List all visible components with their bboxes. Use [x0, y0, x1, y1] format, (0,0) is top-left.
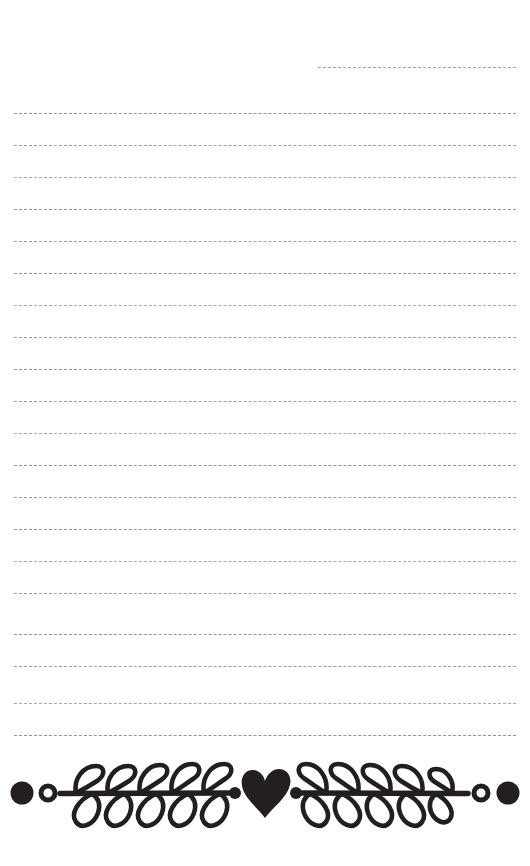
left-branch-upper-leaves — [76, 764, 232, 793]
ruled-line — [14, 273, 516, 274]
ruled-line — [14, 735, 516, 736]
laurel-heart-divider — [0, 752, 530, 838]
ruled-line — [14, 634, 516, 635]
divider-artwork — [0, 752, 530, 838]
left-hollow-dot-icon — [41, 786, 55, 800]
right-branch-lower-leaves — [303, 794, 452, 826]
left-branch-lower-leaves — [74, 794, 227, 826]
right-branch-upper-leaves — [299, 764, 453, 793]
ruled-line — [14, 666, 516, 667]
ruled-line — [14, 305, 516, 306]
ruled-line — [14, 369, 516, 370]
ruled-line — [14, 529, 516, 530]
ruled-line — [14, 177, 516, 178]
right-hollow-dot-icon — [474, 786, 488, 800]
notepaper-page — [0, 0, 530, 866]
ruled-line — [14, 209, 516, 210]
ruled-line — [14, 703, 516, 704]
ruled-line — [14, 113, 516, 114]
ruled-line — [14, 145, 516, 146]
ruled-line — [14, 401, 516, 402]
ruled-line — [14, 241, 516, 242]
right-outer-filled-dot-icon — [497, 782, 520, 805]
left-stem-tip-dot-icon — [229, 787, 241, 799]
ruled-line — [14, 593, 516, 594]
ruled-line — [14, 497, 516, 498]
ruled-line — [14, 433, 516, 434]
ruled-line — [14, 561, 516, 562]
left-outer-filled-dot-icon — [11, 782, 34, 805]
heart-icon — [242, 769, 291, 818]
ruled-line-partial — [318, 67, 516, 68]
ruled-line — [14, 337, 516, 338]
ruled-line — [14, 465, 516, 466]
